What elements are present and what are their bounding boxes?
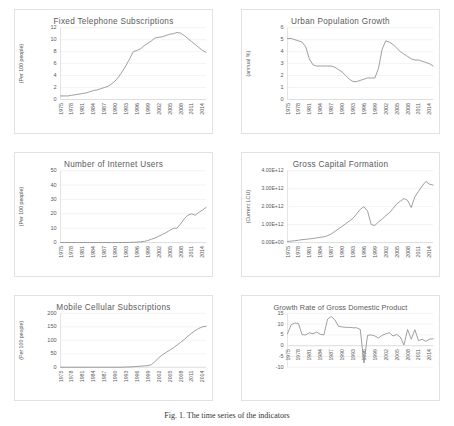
svg-text:2005: 2005 xyxy=(394,246,400,258)
svg-text:1981: 1981 xyxy=(79,246,85,258)
svg-text:1987: 1987 xyxy=(101,246,107,258)
svg-text:1993: 1993 xyxy=(123,103,129,115)
svg-text:5: 5 xyxy=(280,36,283,42)
svg-text:4.00E+12: 4.00E+12 xyxy=(261,167,283,173)
chart-panel-fixed-telephone: Fixed Telephone Subscriptions 0246810121… xyxy=(14,9,213,134)
svg-text:2014: 2014 xyxy=(199,371,205,383)
svg-text:1996: 1996 xyxy=(134,371,140,383)
svg-text:1999: 1999 xyxy=(145,371,151,383)
svg-text:2014: 2014 xyxy=(426,349,432,361)
plot-area-fixed-telephone: 0246810121975197819811984198719901993199… xyxy=(15,10,212,133)
svg-text:2011: 2011 xyxy=(188,103,194,114)
svg-text:1984: 1984 xyxy=(317,103,323,115)
svg-text:1996: 1996 xyxy=(361,103,367,115)
svg-text:(Per 100 people): (Per 100 people) xyxy=(18,44,24,84)
svg-text:1978: 1978 xyxy=(68,371,74,383)
svg-text:1978: 1978 xyxy=(295,349,301,361)
svg-text:2005: 2005 xyxy=(167,103,173,115)
svg-text:1990: 1990 xyxy=(112,103,118,115)
svg-text:6: 6 xyxy=(280,24,283,30)
svg-text:1996: 1996 xyxy=(134,246,140,258)
plot-area-mobile-cellular: 0501001502001975197819811984198719901993… xyxy=(15,296,212,400)
svg-text:50: 50 xyxy=(50,350,56,356)
svg-text:2011: 2011 xyxy=(415,246,421,257)
chart-cell-internet-users: Number of Internet Users 010203040501975… xyxy=(0,143,227,286)
svg-text:1978: 1978 xyxy=(68,103,74,115)
svg-text:2011: 2011 xyxy=(188,371,194,382)
svg-text:2008: 2008 xyxy=(178,103,184,115)
svg-text:1978: 1978 xyxy=(68,246,74,258)
chart-cell-urban-population-growth: Urban Population Growth 0123456197519781… xyxy=(227,0,454,143)
svg-text:1984: 1984 xyxy=(90,371,96,383)
svg-text:1996: 1996 xyxy=(134,103,140,115)
svg-text:2002: 2002 xyxy=(383,246,389,258)
plot-area-internet-users: 0102030405019751978198119841987199019931… xyxy=(15,153,212,276)
svg-text:0: 0 xyxy=(53,364,56,370)
chart-svg-fixed-telephone: 0246810121975197819811984198719901993199… xyxy=(15,10,212,133)
svg-text:2005: 2005 xyxy=(167,246,173,258)
chart-panel-urban-population-growth: Urban Population Growth 0123456197519781… xyxy=(241,9,440,134)
svg-text:20: 20 xyxy=(50,210,56,216)
chart-panel-mobile-cellular: Mobile Cellular Subscriptions 0501001502… xyxy=(14,295,213,401)
svg-text:2005: 2005 xyxy=(167,371,173,383)
svg-text:1987: 1987 xyxy=(328,103,334,115)
svg-text:1975: 1975 xyxy=(285,246,291,258)
svg-text:2014: 2014 xyxy=(426,246,432,258)
svg-text:(annual %): (annual %) xyxy=(245,51,251,77)
svg-text:1993: 1993 xyxy=(123,371,129,383)
svg-text:0: 0 xyxy=(280,96,283,102)
svg-text:40: 40 xyxy=(50,182,56,188)
svg-text:2005: 2005 xyxy=(394,349,400,361)
svg-text:10: 10 xyxy=(50,225,56,231)
svg-text:1981: 1981 xyxy=(306,103,312,115)
svg-text:1.00E+12: 1.00E+12 xyxy=(261,221,283,227)
svg-text:1993: 1993 xyxy=(350,246,356,258)
svg-text:2008: 2008 xyxy=(405,246,411,258)
svg-text:30: 30 xyxy=(50,196,56,202)
svg-text:4: 4 xyxy=(53,72,56,78)
svg-text:1: 1 xyxy=(280,84,283,90)
svg-text:2: 2 xyxy=(280,72,283,78)
svg-text:2011: 2011 xyxy=(188,246,194,257)
chart-svg-internet-users: 0102030405019751978198119841987199019931… xyxy=(15,153,212,276)
svg-text:1975: 1975 xyxy=(284,349,290,361)
svg-text:1984: 1984 xyxy=(317,349,323,361)
svg-text:2011: 2011 xyxy=(415,349,421,360)
svg-text:1981: 1981 xyxy=(79,371,85,383)
svg-text:1987: 1987 xyxy=(101,371,107,383)
svg-text:1990: 1990 xyxy=(339,349,345,361)
svg-text:1975: 1975 xyxy=(57,371,63,383)
chart-svg-gross-capital-formation: 0.00E+001.00E+122.00E+123.00E+124.00E+12… xyxy=(242,153,439,276)
svg-text:1990: 1990 xyxy=(339,246,345,258)
svg-text:1987: 1987 xyxy=(328,349,334,361)
figure-caption: Fig. 1. The time series of the indicator… xyxy=(0,411,454,426)
svg-text:1999: 1999 xyxy=(372,103,378,115)
svg-text:2005: 2005 xyxy=(394,103,400,115)
svg-text:1990: 1990 xyxy=(339,103,345,115)
svg-text:1975: 1975 xyxy=(58,103,64,115)
svg-text:2002: 2002 xyxy=(156,103,162,115)
chart-svg-urban-population-growth: 0123456197519781981198419871990199319961… xyxy=(242,10,439,133)
svg-text:12: 12 xyxy=(50,24,56,30)
chart-cell-gross-capital-formation: Gross Capital Formation 0.00E+001.00E+12… xyxy=(227,143,454,286)
chart-panel-internet-users: Number of Internet Users 010203040501975… xyxy=(14,152,213,277)
plot-area-gross-capital-formation: 0.00E+001.00E+122.00E+123.00E+124.00E+12… xyxy=(242,153,439,276)
svg-text:1987: 1987 xyxy=(328,246,334,258)
svg-text:1984: 1984 xyxy=(90,103,96,115)
svg-text:1981: 1981 xyxy=(79,103,85,115)
svg-text:100: 100 xyxy=(47,337,56,343)
svg-text:2008: 2008 xyxy=(178,371,184,383)
svg-text:1975: 1975 xyxy=(285,103,291,115)
svg-text:8: 8 xyxy=(53,48,56,54)
svg-text:1996: 1996 xyxy=(361,246,367,258)
chart-panel-gdp-growth: Growth Rate of Gross Domestic Product -1… xyxy=(241,295,440,401)
svg-text:2: 2 xyxy=(53,84,56,90)
chart-cell-fixed-telephone: Fixed Telephone Subscriptions 0246810121… xyxy=(0,0,227,143)
svg-text:2002: 2002 xyxy=(156,246,162,258)
svg-text:1978: 1978 xyxy=(295,246,301,258)
svg-text:2008: 2008 xyxy=(405,103,411,115)
svg-text:5: 5 xyxy=(280,331,283,337)
svg-text:1999: 1999 xyxy=(372,246,378,258)
svg-text:2008: 2008 xyxy=(178,246,184,258)
svg-text:4: 4 xyxy=(280,48,283,54)
